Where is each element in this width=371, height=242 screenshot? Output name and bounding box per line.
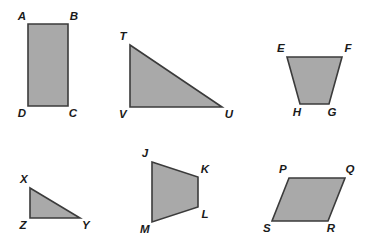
vertex-label-c: C <box>69 108 78 120</box>
vertex-label-j: J <box>142 148 149 160</box>
rectangle-abcd <box>28 24 68 106</box>
vertex-label-q: Q <box>345 164 354 176</box>
vertex-label-x: X <box>20 174 28 186</box>
shapes-canvas <box>0 0 371 242</box>
vertex-label-z: Z <box>19 220 26 232</box>
vertex-label-d: D <box>18 108 27 120</box>
vertex-label-h: H <box>293 107 302 119</box>
triangle-tvu <box>130 45 222 107</box>
vertex-label-m: M <box>140 224 150 236</box>
vertex-label-k: K <box>201 164 210 176</box>
vertex-label-y: Y <box>82 220 90 232</box>
parallelogram-pqrs <box>272 178 345 221</box>
vertex-label-l: L <box>201 209 208 221</box>
trapezoid-efgh <box>287 57 342 104</box>
vertex-label-p: P <box>279 164 287 176</box>
vertex-label-g: G <box>327 107 336 119</box>
vertex-label-b: B <box>70 11 79 23</box>
vertex-label-f: F <box>344 43 351 55</box>
vertex-label-a: A <box>18 11 27 23</box>
vertex-label-u: U <box>225 109 234 121</box>
triangle-xzy <box>30 188 80 218</box>
figure-sheet: ABCDTUVEFGHXYZJKLMPQRS <box>0 0 371 242</box>
vertex-label-r: R <box>327 223 336 235</box>
vertex-label-v: V <box>119 109 127 121</box>
trapezoid-jklm <box>152 162 198 222</box>
vertex-label-s: S <box>263 223 271 235</box>
vertex-label-e: E <box>277 43 285 55</box>
vertex-label-t: T <box>119 31 126 43</box>
